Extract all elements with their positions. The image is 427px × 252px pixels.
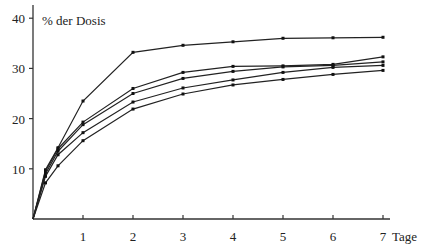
x-tick-label: 1 <box>80 229 87 244</box>
data-point <box>57 153 60 156</box>
series-line-4 <box>33 65 383 219</box>
y-axis-title: % der Dosis <box>42 13 106 28</box>
data-point <box>282 37 285 40</box>
x-tick-label: 7 <box>380 229 387 244</box>
series-line-5 <box>33 70 383 219</box>
data-point <box>132 108 135 111</box>
data-point <box>282 71 285 74</box>
data-point <box>232 78 235 81</box>
data-point <box>57 164 60 167</box>
data-point <box>182 71 185 74</box>
data-point <box>182 93 185 96</box>
data-point <box>282 65 285 68</box>
series-line-3 <box>33 62 383 219</box>
y-tick-label: 30 <box>12 61 25 76</box>
data-point <box>232 70 235 73</box>
data-point <box>132 92 135 95</box>
y-tick-label: 40 <box>12 11 25 26</box>
data-point <box>382 36 385 39</box>
series-line-2 <box>33 57 383 219</box>
y-tick-label: 20 <box>12 112 25 127</box>
data-point <box>382 55 385 58</box>
data-point <box>382 60 385 63</box>
x-axis-title: Tage <box>392 229 417 244</box>
data-point <box>382 64 385 67</box>
x-tick-label: 2 <box>130 229 137 244</box>
data-point <box>57 150 60 153</box>
data-point <box>82 139 85 142</box>
data-point <box>182 44 185 47</box>
data-point <box>44 181 47 184</box>
data-point <box>132 51 135 54</box>
data-point <box>82 100 85 103</box>
data-point <box>182 86 185 89</box>
x-tick-label: 3 <box>180 229 187 244</box>
data-point <box>232 83 235 86</box>
data-point <box>132 101 135 104</box>
data-point <box>332 36 335 39</box>
data-point <box>182 77 185 80</box>
x-tick-label: 4 <box>230 229 237 244</box>
data-point <box>132 87 135 90</box>
data-point <box>282 78 285 81</box>
y-tick-label: 10 <box>12 162 25 177</box>
axes: 102030401234567 <box>12 5 390 244</box>
data-point <box>332 66 335 69</box>
data-point <box>382 69 385 72</box>
data-point <box>44 175 47 178</box>
x-tick-label: 6 <box>330 229 337 244</box>
data-point <box>232 65 235 68</box>
cumulative-dose-chart: 102030401234567 % der Dosis Tage <box>0 0 427 252</box>
data-point <box>82 123 85 126</box>
data-point <box>82 131 85 134</box>
series-group <box>33 36 385 219</box>
data-point <box>332 73 335 76</box>
x-tick-label: 5 <box>280 229 287 244</box>
data-point <box>232 40 235 43</box>
